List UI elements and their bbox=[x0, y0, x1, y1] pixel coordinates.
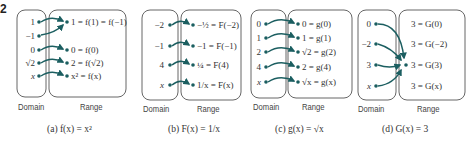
diagram-caption: (a) f(x) = x² bbox=[47, 124, 92, 134]
domain-value: 2 bbox=[248, 47, 261, 57]
domain-value: −2 bbox=[356, 39, 371, 49]
domain-label: Domain bbox=[358, 104, 384, 114]
range-value: ¼ = F(4) bbox=[197, 60, 229, 70]
diagram-caption: (b) F(x) = 1/x bbox=[168, 124, 220, 134]
range-label: Range bbox=[197, 104, 220, 114]
range-value: 3 = G(x) bbox=[411, 81, 442, 91]
range-value: 3 = G(−2) bbox=[411, 39, 447, 49]
domain-value: 0 bbox=[14, 45, 35, 55]
domain-value: x bbox=[14, 71, 35, 81]
diagram-caption: (d) G(x) = 3 bbox=[382, 124, 428, 134]
domain-value: 1 bbox=[248, 33, 261, 43]
domain-value: √2 bbox=[14, 58, 35, 68]
range-value: 2 = g(4) bbox=[302, 62, 331, 72]
range-value: √2 = g(2) bbox=[302, 47, 336, 57]
function-mapping-figure: 2 bbox=[0, 0, 466, 154]
domain-value: −2 bbox=[140, 20, 164, 30]
domain-value: x bbox=[356, 81, 371, 91]
range-label: Range bbox=[302, 102, 325, 112]
range-value: x² = f(x) bbox=[71, 71, 101, 81]
domain-value: 4 bbox=[140, 60, 164, 70]
domain-value: x bbox=[248, 77, 261, 87]
domain-label: Domain bbox=[253, 102, 279, 112]
domain-value: 0 bbox=[248, 19, 261, 29]
range-value: √x = g(x) bbox=[302, 77, 336, 87]
domain-value: −1 bbox=[140, 41, 164, 51]
domain-value: −1 bbox=[14, 31, 35, 41]
domain-value: 0 bbox=[356, 19, 371, 29]
domain-value: 1 bbox=[14, 17, 35, 27]
domain-label: Domain bbox=[18, 102, 44, 112]
domain-value: 3 bbox=[356, 60, 371, 70]
range-value: 1 = f(1) = f(−1) bbox=[71, 17, 127, 27]
domain-value: 4 bbox=[248, 62, 261, 72]
range-value: 1 = g(1) bbox=[302, 33, 331, 43]
range-value: 0 = f(0) bbox=[71, 45, 99, 55]
range-value: 0 = g(0) bbox=[302, 19, 331, 29]
range-value: 3 = G(0) bbox=[411, 19, 442, 29]
range-value: −½ = F(−2) bbox=[197, 20, 239, 30]
range-label: Range bbox=[417, 104, 440, 114]
diagram-caption: (c) g(x) = √x bbox=[275, 124, 324, 134]
range-value: 1/x = F(x) bbox=[197, 80, 234, 90]
domain-value: x bbox=[140, 80, 164, 90]
domain-label: Domain bbox=[143, 104, 169, 114]
range-value: 2 = f(√2) bbox=[71, 58, 104, 68]
range-value: −1 = F(−1) bbox=[197, 41, 237, 51]
range-label: Range bbox=[80, 102, 103, 112]
range-value: 3 = G(3) bbox=[411, 60, 442, 70]
